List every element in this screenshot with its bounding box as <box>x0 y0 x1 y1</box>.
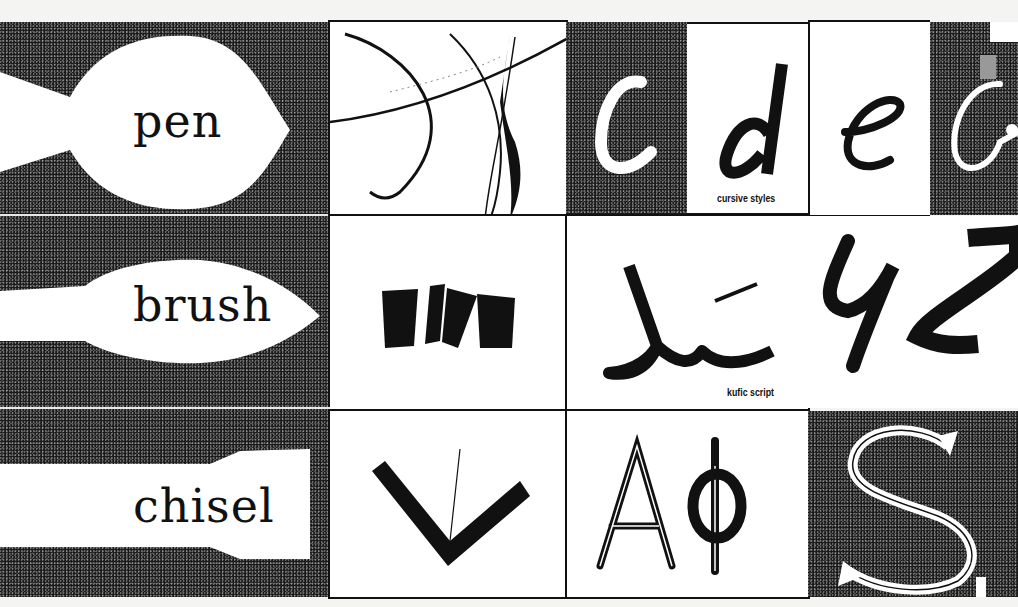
brush-strokes-panel <box>328 214 568 411</box>
chisel-v-drawing <box>330 411 568 599</box>
chisel-panel: chisel <box>0 409 330 597</box>
pen-panel: pen <box>0 22 330 215</box>
brush-label: brush <box>133 278 272 332</box>
brush-blocks-drawing <box>330 216 568 411</box>
pen-curves-drawing <box>330 22 568 217</box>
brush-letters-panel <box>808 216 1018 408</box>
cursive-e-letter <box>810 22 930 217</box>
chisel-label: chisel <box>133 479 275 533</box>
cursive-d-letter <box>687 24 808 215</box>
cursive-g-panel <box>930 22 1018 215</box>
cursive-g-letter <box>930 22 1018 215</box>
brush-letters-drawing <box>808 216 1018 408</box>
kufic-letter-drawing <box>567 216 810 411</box>
a-phi-panel <box>565 409 810 599</box>
chisel-v-panel <box>328 409 568 599</box>
serif-s-letter <box>808 411 1018 597</box>
brush-panel: brush <box>0 216 330 408</box>
kufic-script-caption: kufic script <box>727 386 774 398</box>
a-phi-letters-drawing <box>567 411 810 599</box>
cursive-c-panel <box>566 22 687 215</box>
white-corner-tab <box>976 577 986 597</box>
cursive-d-panel: cursive styles <box>687 22 808 215</box>
serif-s-panel <box>808 411 1018 597</box>
pen-label: pen <box>133 94 222 148</box>
cursive-styles-caption: cursive styles <box>717 192 775 204</box>
pen-strokes-panel <box>328 20 568 217</box>
cursive-c-letter <box>566 22 687 215</box>
cursive-e-panel <box>808 20 930 217</box>
kufic-panel: kufic script <box>565 214 810 411</box>
